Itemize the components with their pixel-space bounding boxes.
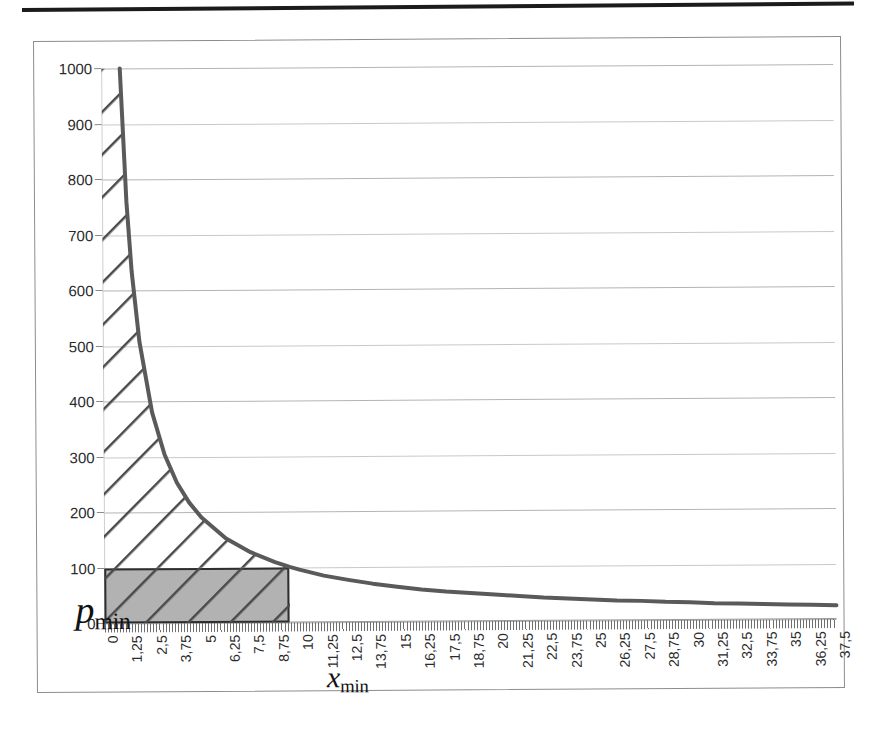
- x-tick-label: 8,75: [275, 634, 291, 661]
- p-min-label: pmin: [75, 590, 130, 633]
- x-tick-label: 31,25: [715, 632, 731, 667]
- y-tick-label: 800: [68, 171, 93, 188]
- x-tick-label: 5: [202, 635, 218, 643]
- y-tick-mark: [95, 235, 102, 236]
- y-tick-label: 600: [68, 282, 93, 299]
- curve-and-hatching-overlay: [101, 64, 836, 623]
- x-tick-label: 12,5: [349, 634, 365, 661]
- p-min-symbol: p: [75, 589, 94, 631]
- x-tick-label: 15: [397, 634, 413, 650]
- x-tick-label: 7,5: [251, 635, 267, 655]
- x-tick-label: 37,5: [837, 631, 853, 658]
- chart-frame: 01002003004005006007008009001000 01,252,…: [33, 36, 845, 693]
- y-tick-label: 400: [69, 393, 94, 410]
- x-min-symbol: x: [327, 660, 341, 693]
- x-tick-label: 17,5: [446, 633, 462, 660]
- plot-area: 01002003004005006007008009001000 01,252,…: [101, 64, 836, 623]
- p-min-subscript: min: [94, 608, 130, 634]
- x-tick-label: 10: [300, 634, 316, 650]
- x-tick-label: 33,75: [763, 631, 779, 666]
- y-tick-label: 200: [70, 504, 95, 521]
- x-tick-label: 36,25: [812, 631, 828, 666]
- x-tick-label: 21,25: [519, 633, 535, 668]
- x-tick-label: 26,25: [617, 632, 633, 667]
- x-tick-label: 28,75: [666, 632, 682, 667]
- x-tick-label: 32,5: [739, 632, 755, 659]
- x-min-label: xmin: [327, 662, 369, 696]
- y-tick-label: 500: [69, 338, 94, 355]
- x-tick-label: 18,75: [471, 633, 487, 668]
- demand-curve: [120, 64, 837, 609]
- x-tick-label: 2,5: [153, 635, 169, 655]
- y-tick-mark: [95, 179, 102, 180]
- y-tick-label: 300: [69, 449, 94, 466]
- y-tick-mark: [97, 568, 104, 569]
- x-tick-label: 6,25: [227, 635, 243, 662]
- hatched-area-above-rectangle: [101, 64, 836, 623]
- page-top-rule: [22, 1, 854, 12]
- x-tick-label: 13,75: [373, 634, 389, 669]
- x-tick-label: 0: [105, 635, 121, 643]
- y-tick-mark: [94, 68, 101, 69]
- x-tick-label: 30: [690, 632, 706, 648]
- y-tick-mark: [96, 346, 103, 347]
- y-tick-label: 1000: [59, 60, 92, 77]
- x-tick-label: 22,5: [544, 633, 560, 660]
- y-tick-label: 100: [70, 560, 95, 577]
- y-tick-mark: [96, 401, 103, 402]
- x-tick-label: 23,75: [568, 633, 584, 668]
- y-tick-mark: [97, 457, 104, 458]
- y-tick-label: 900: [67, 116, 92, 133]
- x-tick-label: 35: [788, 631, 804, 647]
- x-tick-label: 16,25: [422, 634, 438, 669]
- x-tick-label: 27,5: [641, 632, 657, 659]
- y-tick-mark: [97, 512, 104, 513]
- x-tick-label: 20: [495, 633, 511, 649]
- y-tick-mark: [96, 290, 103, 291]
- y-tick-mark: [95, 124, 102, 125]
- y-tick-label: 700: [68, 227, 93, 244]
- x-tick-label: 1,25: [129, 635, 145, 662]
- x-tick-label: 25: [593, 632, 609, 648]
- x-tick-label: 3,75: [178, 635, 194, 662]
- x-min-subscript: min: [340, 675, 369, 696]
